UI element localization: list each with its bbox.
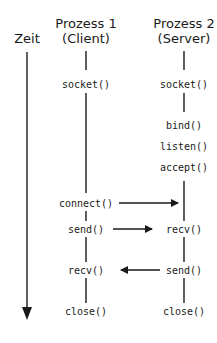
server-call-bind: bind() (166, 120, 202, 131)
server-call-send: send() (166, 265, 202, 276)
client-title: Prozess 1 (55, 16, 116, 31)
client-call-connect: connect() (59, 198, 113, 209)
time-axis-label: Zeit (14, 31, 40, 46)
socket-sequence-diagram: Zeit Prozess 1 (Client) Prozess 2 (Serve… (0, 0, 217, 343)
server-call-socket: socket() (160, 79, 208, 90)
server-call-close: close() (163, 306, 205, 317)
client-subtitle: (Client) (62, 31, 110, 46)
client-call-close: close() (65, 306, 107, 317)
server-call-recv: recv() (166, 224, 202, 235)
server-call-accept: accept() (160, 162, 208, 173)
server-title: Prozess 2 (153, 16, 214, 31)
server-subtitle: (Server) (158, 31, 211, 46)
server-call-listen: listen() (160, 141, 208, 152)
client-call-socket: socket() (62, 79, 110, 90)
client-call-recv: recv() (68, 265, 104, 276)
client-call-send: send() (68, 224, 104, 235)
time-arrow-head-icon (22, 307, 32, 320)
